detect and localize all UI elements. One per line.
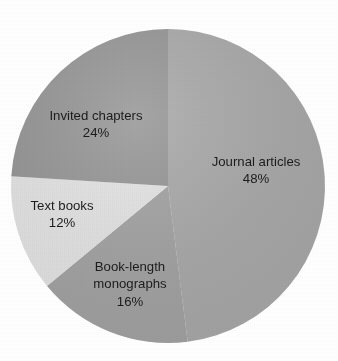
pie-slice-label-text-books-value: 12% [49, 215, 76, 230]
pie-chart-canvas: Journal articles48%Book-lengthmonographs… [0, 0, 338, 361]
pie-slice-label-journal-articles-text: Journal articles [212, 154, 301, 169]
pie-chart-figure: Journal articles48%Book-lengthmonographs… [0, 0, 338, 361]
pie-shading-circle [11, 29, 325, 343]
pie-slice-label-book-length-monographs-text: Book-length [95, 259, 165, 274]
pie-slice-label-invited-chapters-text: Invited chapters [49, 108, 143, 123]
pie-shading-overlay [11, 29, 325, 343]
pie-slice-label-journal-articles-value: 48% [243, 171, 270, 186]
pie-slice-label-text-books-text: Text books [30, 198, 93, 213]
pie-slice-label-book-length-monographs-value: 16% [117, 294, 144, 309]
pie-slice-label-invited-chapters-value: 24% [83, 125, 110, 140]
pie-slice-label-book-length-monographs-text: monographs [93, 276, 167, 291]
